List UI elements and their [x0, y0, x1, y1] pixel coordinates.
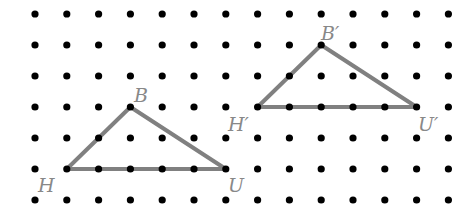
grid-dot — [445, 165, 452, 172]
grid-dot — [159, 134, 166, 141]
grid-dot — [381, 10, 388, 17]
grid-dot — [413, 165, 420, 172]
grid-dot — [254, 103, 261, 110]
grid-dot — [31, 196, 38, 203]
grid-dot — [381, 41, 388, 48]
grid-dot — [349, 10, 356, 17]
grid-dot — [159, 10, 166, 17]
grid-dot — [254, 196, 261, 203]
grid-dot — [445, 134, 452, 141]
grid-dot — [127, 196, 134, 203]
grid-dot — [190, 10, 197, 17]
label-U-prime: U′ — [418, 113, 439, 135]
grid-dot — [127, 10, 134, 17]
grid-dot — [222, 103, 229, 110]
label-B: B — [133, 84, 148, 106]
grid-dot — [381, 196, 388, 203]
grid-dot — [286, 196, 293, 203]
grid-dot — [190, 72, 197, 79]
grid-dot — [31, 41, 38, 48]
grid-dot — [318, 165, 325, 172]
grid-dot — [318, 10, 325, 17]
grid-dot — [159, 72, 166, 79]
grid-dot — [31, 165, 38, 172]
grid-dot — [254, 165, 261, 172]
grid-dot — [254, 134, 261, 141]
grid-dot — [63, 103, 70, 110]
grid-dot — [286, 41, 293, 48]
grid-dot — [349, 41, 356, 48]
grid-dot — [413, 134, 420, 141]
grid-dot — [127, 103, 134, 110]
grid-dot — [445, 10, 452, 17]
grid-dot — [413, 41, 420, 48]
grid-dot — [413, 72, 420, 79]
grid-dot — [381, 103, 388, 110]
grid-dot — [63, 165, 70, 172]
grid-dot — [95, 134, 102, 141]
grid-dot — [127, 134, 134, 141]
grid-dot — [222, 10, 229, 17]
grid-dot — [95, 72, 102, 79]
triangle-original — [67, 107, 226, 169]
grid-dot — [63, 41, 70, 48]
grid-dot — [286, 165, 293, 172]
grid-dot — [31, 103, 38, 110]
grid-dot — [318, 103, 325, 110]
grid-dot — [127, 165, 134, 172]
grid-dot — [190, 103, 197, 110]
grid-dot — [318, 196, 325, 203]
grid-dot — [445, 103, 452, 110]
label-B-prime: B′ — [320, 22, 340, 44]
grid-dot — [349, 196, 356, 203]
triangle-image — [258, 45, 417, 107]
grid-dot — [381, 134, 388, 141]
grid-dot — [318, 41, 325, 48]
grid-dot — [95, 10, 102, 17]
grid-dot — [31, 10, 38, 17]
grid-dot — [63, 134, 70, 141]
grid-dot — [190, 165, 197, 172]
grid-dot — [95, 41, 102, 48]
grid-dot — [349, 134, 356, 141]
grid-dot — [127, 41, 134, 48]
grid-dot — [190, 134, 197, 141]
grid-dot — [63, 72, 70, 79]
grid-dot — [159, 196, 166, 203]
grid-dot — [159, 41, 166, 48]
label-H-prime: H′ — [227, 113, 250, 135]
grid-dot — [318, 134, 325, 141]
grid-dot — [63, 10, 70, 17]
grid-dot — [159, 103, 166, 110]
grid-dot — [349, 103, 356, 110]
label-U: U — [228, 174, 245, 196]
grid-dot — [31, 72, 38, 79]
grid-dot — [254, 72, 261, 79]
grid-dot — [349, 165, 356, 172]
dot-grid-diagram: H B U H′ B′ U′ — [0, 0, 473, 213]
triangles — [67, 45, 417, 169]
grid-dot — [286, 10, 293, 17]
grid-dot — [63, 196, 70, 203]
grid-dot — [222, 165, 229, 172]
grid-dot — [222, 134, 229, 141]
grid-dot — [95, 103, 102, 110]
grid-dot — [413, 103, 420, 110]
grid-dot — [286, 134, 293, 141]
grid-dot — [349, 72, 356, 79]
grid-dot — [286, 72, 293, 79]
grid-dot — [445, 72, 452, 79]
grid-dot — [190, 41, 197, 48]
grid-dot — [381, 72, 388, 79]
grid-dot — [413, 196, 420, 203]
grid-dot — [222, 41, 229, 48]
grid-dot — [222, 72, 229, 79]
grid-dot — [222, 196, 229, 203]
label-H: H — [37, 174, 55, 196]
grid-dot — [413, 10, 420, 17]
grid-dot — [445, 41, 452, 48]
grid-dot — [190, 196, 197, 203]
grid-dot — [381, 165, 388, 172]
grid-dot — [445, 196, 452, 203]
grid-dot — [95, 196, 102, 203]
